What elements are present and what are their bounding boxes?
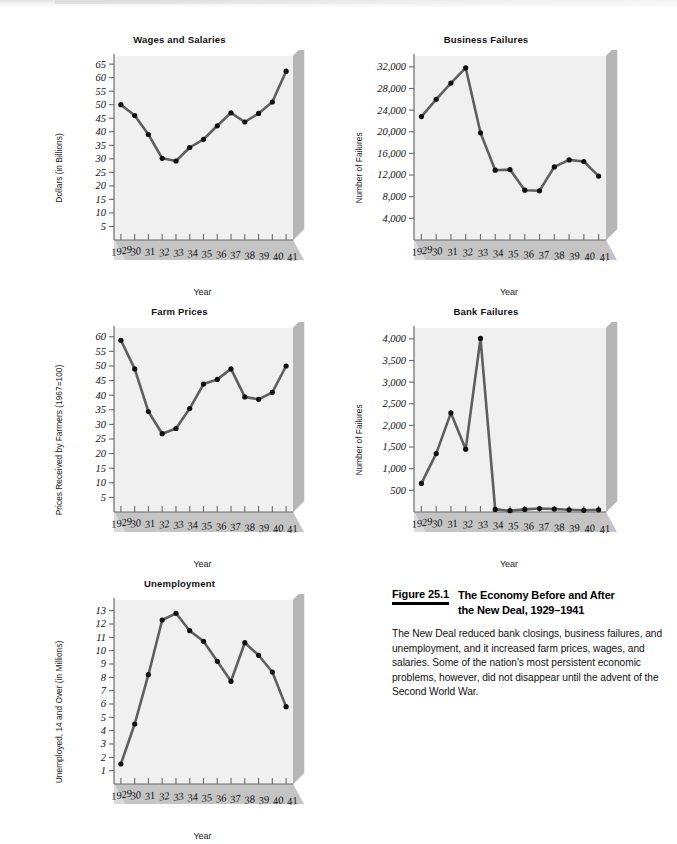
plot-background	[114, 328, 293, 512]
y-tick-label: 3,000	[381, 377, 406, 388]
plot-background	[414, 56, 606, 240]
x-axis-label-business-failures: Year	[352, 287, 620, 297]
chart-svg-wages-and-salaries: 5101520253035404550556065192930313233343…	[52, 50, 307, 286]
chart-title-bank-failures: Bank Failures	[352, 306, 620, 317]
y-tick-label: 2,500	[382, 398, 406, 409]
chart-panel-farm-prices: Farm PricesPrices Received by Farmers (1…	[52, 306, 307, 569]
y-tick-label: 50	[96, 360, 107, 371]
figure-number: Figure 25.1	[392, 588, 449, 600]
data-point	[160, 617, 165, 622]
chart-svg-bank-failures: 5001,0001,5002,0002,5003,0003,5004,00019…	[352, 322, 620, 558]
data-point	[284, 363, 289, 368]
y-tick-label: 35	[95, 140, 107, 151]
data-point	[270, 390, 275, 395]
chart-panel-business-failures: Business FailuresNumber of Failures4,000…	[352, 34, 620, 297]
y-tick-label: 30	[95, 153, 107, 164]
data-point	[522, 188, 527, 193]
x-tick-label: 35	[200, 792, 213, 805]
y-tick-label: 10	[96, 645, 107, 656]
y-tick-label: 16,000	[377, 148, 407, 159]
x-tick-label: 41	[286, 251, 298, 264]
data-point	[493, 507, 498, 512]
y-tick-label: 20	[96, 180, 107, 191]
x-tick-label: 31	[143, 246, 156, 259]
plot-area-business-failures: Number of Failures4,0008,00012,00016,000…	[352, 50, 620, 286]
plot-area-unemployment: Unemployed, 14 and Over (in Millions)123…	[52, 594, 307, 830]
data-point	[284, 69, 289, 74]
y-tick-label: 8	[101, 672, 107, 683]
data-point	[228, 110, 233, 115]
x-tick-label: 35	[506, 520, 519, 533]
data-point	[118, 102, 123, 107]
y-tick-label: 45	[96, 113, 107, 124]
y-tick-label: 12	[96, 618, 107, 629]
x-tick-label: 41	[599, 251, 611, 264]
figure-title-line-2: the New Deal, 1929–1941	[458, 603, 615, 618]
y-tick-label: 45	[96, 375, 107, 386]
plot-area-bank-failures: Number of Failures5001,0001,5002,0002,50…	[352, 322, 620, 558]
x-axis-label-unemployment: Year	[52, 831, 307, 841]
x-tick-label: 35	[200, 248, 213, 261]
data-point	[448, 81, 453, 86]
y-tick-label: 12,000	[377, 169, 407, 180]
y-axis-label-wages-and-salaries: Dollars (in Billions)	[52, 50, 66, 286]
y-tick-label: 1,000	[382, 463, 406, 474]
data-point	[256, 397, 261, 402]
data-point	[146, 132, 151, 137]
y-tick-label: 60	[96, 72, 107, 83]
y-tick-label: 20	[96, 448, 107, 459]
data-point	[215, 123, 220, 128]
x-tick-label: 41	[599, 523, 611, 536]
data-point	[173, 611, 178, 616]
data-point	[173, 426, 178, 431]
chart-svg-business-failures: 4,0008,00012,00016,00020,00024,00028,000…	[352, 50, 620, 286]
data-point	[187, 628, 192, 633]
x-axis-label-wages-and-salaries: Year	[52, 287, 307, 297]
y-tick-label: 20,000	[377, 126, 407, 137]
figure-caption-block: Figure 25.1 The Economy Before and After…	[392, 588, 672, 700]
chart-svg-unemployment: 1234567891011121319293031323334353637383…	[52, 594, 307, 830]
x-tick-label: 33	[476, 247, 489, 260]
data-point	[493, 168, 498, 173]
y-tick-label: 55	[96, 86, 107, 97]
y-tick-label: 5	[101, 492, 106, 503]
plot-area-wages-and-salaries: Dollars (in Billions)5101520253035404550…	[52, 50, 307, 286]
data-point	[581, 159, 586, 164]
data-point	[242, 119, 247, 124]
figure-title: The Economy Before and After the New Dea…	[458, 588, 615, 617]
data-point	[522, 507, 527, 512]
data-point	[118, 338, 123, 343]
y-tick-label: 25	[96, 433, 107, 444]
y-tick-label: 2,000	[382, 420, 406, 431]
y-tick-label: 4,000	[382, 333, 406, 344]
plot-3d-right-face	[606, 50, 617, 240]
chart-panel-wages-and-salaries: Wages and SalariesDollars (in Billions)5…	[52, 34, 307, 297]
data-point	[118, 761, 123, 766]
plot-background	[114, 600, 293, 784]
y-tick-label: 65	[96, 59, 107, 70]
data-point	[242, 640, 247, 645]
x-tick-label: 41	[286, 795, 298, 808]
y-tick-label: 4,000	[382, 213, 406, 224]
y-tick-label: 13	[96, 605, 107, 616]
y-axis-label-farm-prices: Prices Received by Farmers (1967=100)	[52, 322, 66, 558]
data-point	[552, 164, 557, 169]
x-tick-label: 33	[171, 247, 184, 260]
x-tick-label: 31	[143, 518, 156, 531]
y-tick-label: 15	[96, 463, 107, 474]
data-point	[256, 653, 261, 658]
data-point	[463, 65, 468, 70]
data-point	[434, 451, 439, 456]
y-axis-label-unemployment: Unemployed, 14 and Over (in Millions)	[52, 594, 66, 830]
y-tick-label: 6	[101, 698, 107, 709]
x-axis-label-bank-failures: Year	[352, 559, 620, 569]
data-point	[537, 506, 542, 511]
y-tick-label: 1,500	[382, 441, 406, 452]
data-point	[448, 410, 453, 415]
data-point	[242, 394, 247, 399]
plot-3d-right-face	[293, 322, 304, 512]
x-tick-label: 31	[445, 518, 458, 531]
data-point	[228, 366, 233, 371]
y-tick-label: 2	[101, 752, 107, 763]
y-tick-label: 3	[100, 738, 106, 749]
